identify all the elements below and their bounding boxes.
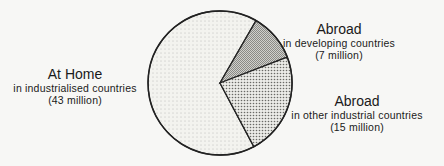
label-at-home-title: At Home (4, 66, 146, 82)
label-developing-value: (7 million) (276, 49, 402, 61)
label-industrial-title: Abroad (287, 93, 427, 109)
label-industrial-detail: in other industrial countries (287, 109, 427, 121)
label-developing-detail: in developing countries (276, 37, 402, 49)
label-at-home: At Home in industrialised countries (43 … (4, 66, 146, 106)
label-industrial-value: (15 million) (287, 121, 427, 133)
label-abroad-industrial: Abroad in other industrial countries (15… (287, 93, 427, 133)
label-developing-title: Abroad (276, 21, 402, 37)
label-abroad-developing: Abroad in developing countries (7 millio… (276, 21, 402, 61)
label-at-home-detail: in industrialised countries (4, 82, 146, 94)
label-at-home-value: (43 million) (4, 94, 146, 106)
